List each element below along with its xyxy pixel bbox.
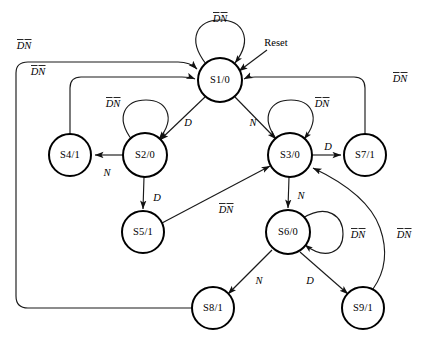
label-self-loop-s6: DN <box>350 229 367 241</box>
edge-label-s1-s2: D <box>183 117 192 128</box>
state-diagram-svg: S1/0 S2/0 S3/0 S4/1 S5/1 S6/0 S7/1 <box>0 0 433 345</box>
edge-s2-to-s5 <box>143 177 144 209</box>
self-loop-s2-label: DN <box>105 98 122 109</box>
edge-s5-to-s3 <box>162 166 270 223</box>
edge-label-s6-s8: N <box>254 275 263 286</box>
edge-label-s8-s1: DN <box>16 40 33 51</box>
state-label-s1: S1/0 <box>210 74 230 85</box>
edge-label-s2-s4: N <box>102 167 111 178</box>
state-node-s8[interactable]: S8/1 <box>192 287 234 329</box>
state-node-s9[interactable]: S9/1 <box>342 287 384 329</box>
state-label-s3: S3/0 <box>280 149 300 160</box>
edge-label-s3-s6: N <box>296 190 305 201</box>
edge-s6-to-s8 <box>228 250 272 294</box>
label-edge-s7-s1: DN <box>392 73 409 85</box>
label-edge-s5-s3: DN <box>218 204 235 216</box>
state-node-s4[interactable]: S4/1 <box>49 134 91 176</box>
edge-label-s7-s1: DN <box>392 73 409 84</box>
state-node-s5[interactable]: S5/1 <box>122 211 164 253</box>
state-label-s6: S6/0 <box>278 226 298 237</box>
state-label-s7: S7/1 <box>355 149 375 160</box>
edge-s9-to-s3 <box>313 168 385 289</box>
edge-label-s5-s3: DN <box>218 204 235 215</box>
state-label-s4: S4/1 <box>60 149 80 160</box>
edge-s6-to-s9 <box>300 252 348 294</box>
state-label-s9: S9/1 <box>353 302 373 313</box>
edge-label-s1-s3: N <box>248 117 257 128</box>
label-edge-s8-s1: DN <box>16 40 33 52</box>
edge-label-s2-s5: D <box>152 192 161 203</box>
state-label-s5: S5/1 <box>133 226 153 237</box>
state-diagram-canvas: S1/0 S2/0 S3/0 S4/1 S5/1 S6/0 S7/1 <box>0 0 433 345</box>
edge-label-s4-s1: DN <box>30 66 47 77</box>
state-label-s2: S2/0 <box>135 149 155 160</box>
edge-s3-to-s6 <box>288 177 289 208</box>
self-loop-s6-label: DN <box>350 229 367 240</box>
label-self-loop-s1: DN <box>212 13 229 25</box>
state-node-s2[interactable]: S2/0 <box>123 133 167 177</box>
label-self-loop-s3: DN <box>314 98 331 110</box>
self-loop-s3-label: DN <box>314 98 331 109</box>
label-edge-s9-s3: DN <box>396 229 413 241</box>
state-node-s3[interactable]: S3/0 <box>268 133 312 177</box>
reset-label: Reset <box>264 37 287 48</box>
edge-label-s9-s3: DN <box>396 229 413 240</box>
label-edge-s4-s1: DN <box>30 66 47 78</box>
edge-label-s6-s9: D <box>305 275 314 286</box>
edge-label-s3-s7: D <box>323 141 332 152</box>
edge-s4-to-s1 <box>70 77 195 134</box>
state-node-s7[interactable]: S7/1 <box>344 134 386 176</box>
self-loop-s1-label: DN <box>212 13 229 24</box>
state-node-s1[interactable]: S1/0 <box>198 58 242 102</box>
label-self-loop-s2: DN <box>105 98 122 110</box>
reset-arrow <box>239 50 267 71</box>
state-label-s8: S8/1 <box>203 302 223 313</box>
state-node-s6[interactable]: S6/0 <box>266 210 310 254</box>
edge-s1-to-s2 <box>160 97 205 140</box>
